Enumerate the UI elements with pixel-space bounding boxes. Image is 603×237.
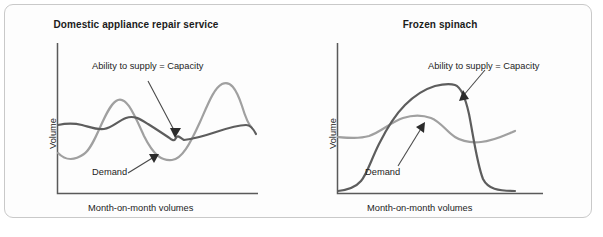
capacity-annotation-label: Ability to supply = Capacity: [428, 61, 539, 71]
demand-annotation-arrow: [128, 154, 159, 173]
panel-domestic-appliance-repair-service: Domestic appliance repair service Abilit…: [4, 4, 300, 218]
x-axis-label: Month-on-month volumes: [367, 203, 472, 213]
demand-annotation-arrow: [398, 122, 425, 166]
figure-container: Domestic appliance repair service Abilit…: [0, 0, 603, 237]
capacity-annotation-label: Ability to supply = Capacity: [92, 61, 203, 71]
plot-area-left: [4, 4, 300, 218]
plot-area-right: [303, 4, 599, 218]
capacity-annotation-arrow: [459, 70, 485, 101]
x-axis-label: Month-on-month volumes: [88, 203, 193, 213]
y-axis-label: Volume: [48, 118, 58, 149]
capacity-annotation-arrow: [148, 81, 181, 138]
demand-annotation-label: Demand: [365, 167, 400, 177]
demand-curve: [338, 115, 515, 142]
capacity-curve: [58, 117, 256, 140]
panel-frozen-spinach: Frozen spinach Ability to supply = Capac…: [303, 4, 599, 218]
demand-annotation-label: Demand: [92, 167, 127, 177]
y-axis-label: Volume: [328, 118, 338, 149]
